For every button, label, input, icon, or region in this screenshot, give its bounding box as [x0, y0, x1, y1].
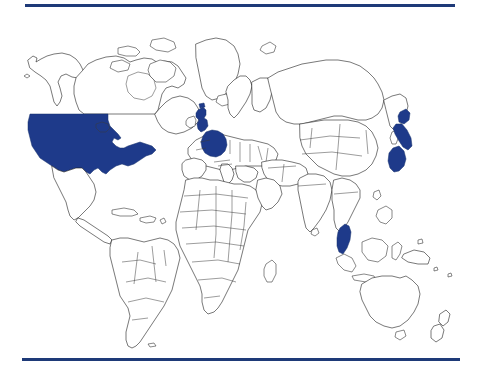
sumatra — [336, 254, 356, 272]
madagascar — [264, 260, 276, 282]
tasmania — [395, 330, 406, 340]
svalbard — [260, 42, 276, 54]
central-america — [76, 218, 112, 244]
sulawesi — [392, 242, 402, 260]
cuba-island — [112, 208, 138, 216]
top-divider-rule — [25, 4, 455, 7]
pacific-island-small-b — [448, 273, 452, 277]
borneo — [362, 238, 388, 262]
bottom-divider-rule — [22, 358, 460, 361]
taiwan — [373, 190, 381, 200]
papua-new-guinea — [402, 250, 430, 264]
region-asia — [256, 60, 412, 282]
country-new-zealand — [439, 310, 450, 326]
russia-siberia — [268, 60, 384, 124]
iberian-peninsula — [182, 158, 206, 180]
world-map-canvas — [0, 14, 480, 354]
pacific-islands — [418, 239, 423, 244]
uk-scotland-tip — [199, 103, 205, 108]
south-america-landmass — [110, 238, 180, 348]
country-mexico — [52, 166, 96, 220]
world-map-figure — [0, 0, 480, 377]
pacific-island-small-a — [434, 267, 438, 271]
japan-south-highlighted — [388, 146, 406, 172]
country-germany-benelux-highlighted — [201, 130, 227, 157]
china-mongolia — [300, 120, 378, 176]
falkland-islands — [148, 343, 156, 347]
africa-landmass — [176, 178, 262, 314]
ellesmere-island — [150, 38, 176, 52]
new-zealand-south-island — [431, 324, 444, 342]
country-united-states-highlighted — [28, 114, 156, 174]
canada-east-labrador — [155, 96, 200, 134]
balkans-greece — [236, 166, 258, 182]
southeast-asia-mainland — [332, 178, 360, 232]
philippines — [376, 206, 392, 224]
lesser-antilles — [160, 218, 166, 224]
arctic-archipelago — [118, 46, 140, 56]
country-australia — [360, 276, 420, 328]
world-map-svg — [0, 14, 480, 354]
region-south-america — [110, 238, 180, 348]
hispaniola-island — [140, 216, 156, 223]
india — [298, 174, 332, 232]
aleutian-islands — [24, 74, 30, 78]
